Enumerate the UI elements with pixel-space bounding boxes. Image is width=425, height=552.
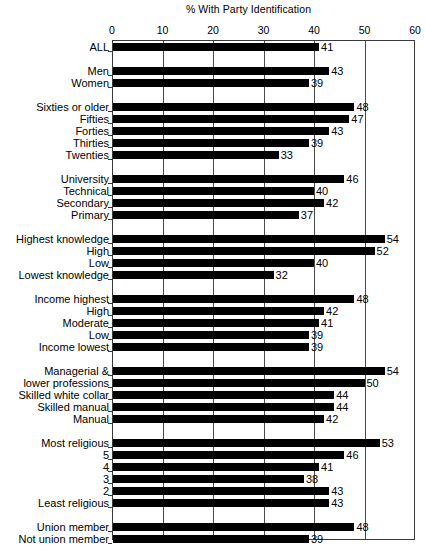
bar-value-label: 54 bbox=[387, 365, 399, 377]
bar-value-label: 39 bbox=[311, 329, 323, 341]
bar-category-label: Thirties bbox=[0, 137, 109, 149]
bar-category-label: Moderate bbox=[0, 317, 109, 329]
bar-value-label: 38 bbox=[306, 473, 318, 485]
bar-value-label: 48 bbox=[356, 293, 368, 305]
bar bbox=[113, 535, 309, 543]
bar-rows: ALL41Men43Women39Sixties or older48Fifti… bbox=[0, 40, 425, 540]
y-axis-tick-mark bbox=[108, 267, 112, 268]
bar bbox=[113, 391, 334, 399]
y-axis-tick-mark bbox=[108, 123, 112, 124]
bar bbox=[113, 379, 365, 387]
bar-value-label: 44 bbox=[336, 389, 348, 401]
x-axis-tick-50: 50 bbox=[359, 24, 371, 36]
bar-value-label: 52 bbox=[377, 245, 389, 257]
bar-category-label: Twenties bbox=[0, 149, 109, 161]
bar-value-label: 43 bbox=[331, 497, 343, 509]
bar-value-label: 41 bbox=[321, 41, 333, 53]
bar-category-label: Lowest knowledge bbox=[0, 269, 109, 281]
bar-category-label: ALL bbox=[0, 41, 109, 53]
bar-category-label: Income highest bbox=[0, 293, 109, 305]
x-axis-tick-labels: 0102030405060 bbox=[0, 24, 425, 38]
bar-category-label: 4 bbox=[0, 461, 109, 473]
table-row: Twenties33 bbox=[0, 150, 425, 162]
bar-value-label: 43 bbox=[331, 125, 343, 137]
bar bbox=[113, 211, 299, 219]
bar bbox=[113, 271, 274, 279]
bar-value-label: 48 bbox=[356, 101, 368, 113]
bar bbox=[113, 79, 309, 87]
y-axis-tick-mark bbox=[108, 255, 112, 256]
bar bbox=[113, 415, 324, 423]
bar-value-label: 37 bbox=[301, 209, 313, 221]
bar-category-label: Primary bbox=[0, 209, 109, 221]
bar-value-label: 40 bbox=[316, 257, 328, 269]
bar bbox=[113, 151, 279, 159]
bar-category-label: High bbox=[0, 245, 109, 257]
bar-category-label: Forties bbox=[0, 125, 109, 137]
bar-category-label: Women bbox=[0, 77, 109, 89]
bar bbox=[113, 367, 385, 375]
bar-category-label: Low bbox=[0, 257, 109, 269]
bar-value-label: 41 bbox=[321, 461, 333, 473]
bar bbox=[113, 43, 319, 51]
bar bbox=[113, 175, 344, 183]
y-axis-tick-mark bbox=[108, 159, 112, 160]
bar-value-label: 33 bbox=[281, 149, 293, 161]
bar-category-label: 3 bbox=[0, 473, 109, 485]
y-axis-tick-mark bbox=[108, 411, 112, 412]
y-axis-tick-mark bbox=[108, 423, 112, 424]
bar bbox=[113, 199, 324, 207]
bar-value-label: 32 bbox=[276, 269, 288, 281]
bar bbox=[113, 103, 354, 111]
y-axis-tick-mark bbox=[108, 459, 112, 460]
bar bbox=[113, 235, 385, 243]
bar bbox=[113, 259, 314, 267]
bar-value-label: 48 bbox=[356, 521, 368, 533]
y-axis-tick-mark bbox=[108, 147, 112, 148]
bar-value-label: 43 bbox=[331, 65, 343, 77]
bar bbox=[113, 127, 329, 135]
bar bbox=[113, 247, 375, 255]
y-axis-tick-mark bbox=[108, 375, 112, 376]
bar-value-label: 46 bbox=[346, 449, 358, 461]
bar-category-label: Most religious bbox=[0, 437, 109, 449]
bar-value-label: 43 bbox=[331, 485, 343, 497]
bar-value-label: 42 bbox=[326, 197, 338, 209]
bar-category-label: Managerial & bbox=[0, 365, 109, 377]
table-row: Income lowest39 bbox=[0, 342, 425, 354]
bar bbox=[113, 319, 319, 327]
bar-value-label: 41 bbox=[321, 317, 333, 329]
y-axis-tick-mark bbox=[108, 111, 112, 112]
bar-value-label: 39 bbox=[311, 341, 323, 353]
bar bbox=[113, 187, 314, 195]
bar bbox=[113, 475, 304, 483]
bar-value-label: 50 bbox=[367, 377, 379, 389]
bar-category-label: Least religious bbox=[0, 497, 109, 509]
bar-category-label: 5 bbox=[0, 449, 109, 461]
bar bbox=[113, 67, 329, 75]
bar-value-label: 40 bbox=[316, 185, 328, 197]
bar-category-label: Fifties bbox=[0, 113, 109, 125]
y-axis-tick-mark bbox=[108, 495, 112, 496]
table-row: Not union member39 bbox=[0, 534, 425, 546]
y-axis-tick-mark bbox=[108, 219, 112, 220]
bar-category-label: University bbox=[0, 173, 109, 185]
y-axis-tick-mark bbox=[108, 447, 112, 448]
bar bbox=[113, 451, 344, 459]
bar-value-label: 39 bbox=[311, 533, 323, 545]
bar bbox=[113, 499, 329, 507]
bar-category-label: Sixties or older bbox=[0, 101, 109, 113]
table-row: ALL41 bbox=[0, 42, 425, 54]
y-axis-tick-mark bbox=[108, 75, 112, 76]
bar-value-label: 53 bbox=[382, 437, 394, 449]
bar bbox=[113, 115, 349, 123]
y-axis-tick-mark bbox=[108, 195, 112, 196]
y-axis-tick-mark bbox=[108, 399, 112, 400]
bar-chart: % With Party Identification 010203040506… bbox=[0, 0, 425, 552]
bar bbox=[113, 295, 354, 303]
x-axis-tick-20: 20 bbox=[207, 24, 219, 36]
table-row: Least religious43 bbox=[0, 498, 425, 510]
bar-category-label: 2 bbox=[0, 485, 109, 497]
table-row: Women39 bbox=[0, 78, 425, 90]
table-row: Lowest knowledge32 bbox=[0, 270, 425, 282]
